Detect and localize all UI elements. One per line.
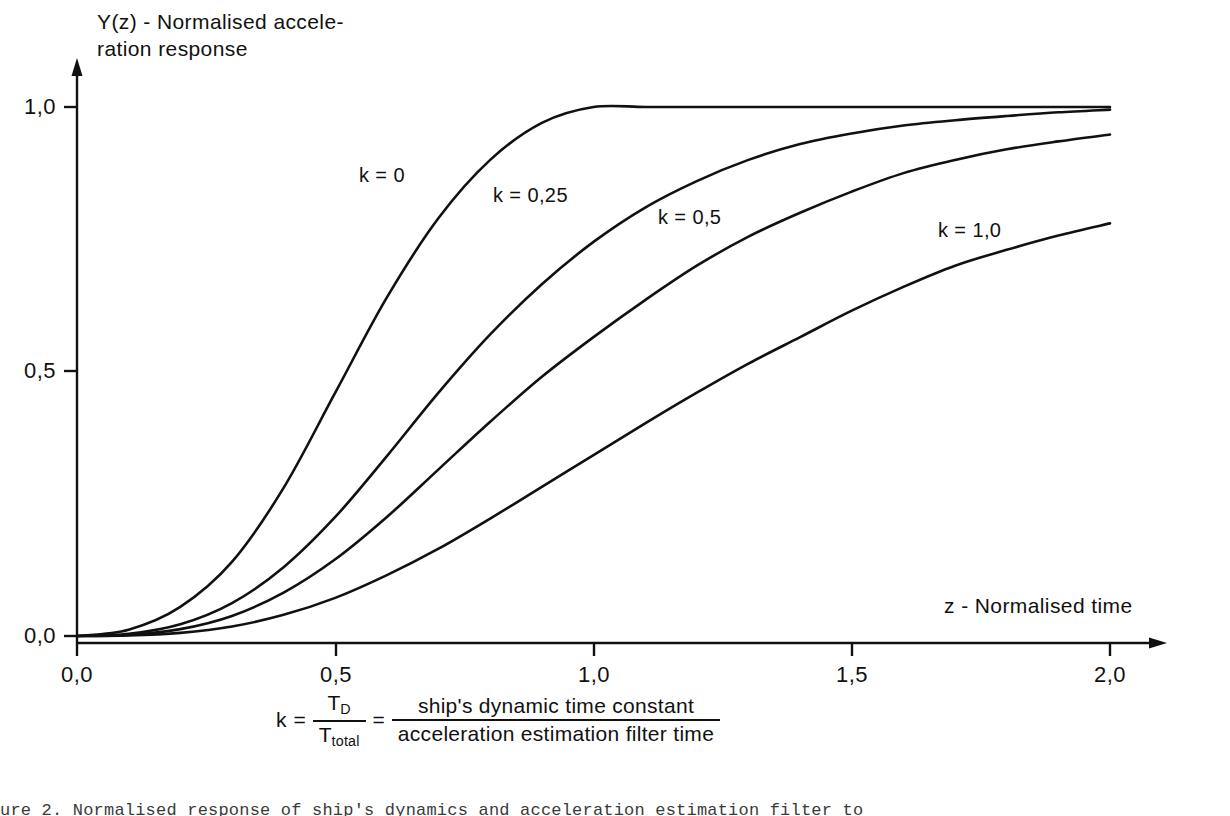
formula-denominator-t: T (319, 723, 332, 746)
curve-k-0 (77, 106, 1110, 636)
formula-numerator-subscript: D (340, 701, 351, 717)
formula-denominator-ttotal: Ttotal (313, 722, 366, 751)
data-curves (77, 106, 1110, 636)
x-tick-label-15: 1,5 (822, 662, 882, 688)
curve-label-k-10: k = 1,0 (938, 219, 1001, 242)
figure-root: Y(z) - Normalised accele-ration response… (0, 0, 1230, 816)
curve-label-k-05: k = 0,5 (658, 206, 721, 229)
y-tick-label-05: 0,5 (0, 358, 56, 384)
x-tick-label-10: 1,0 (564, 662, 624, 688)
curve-k-0-25 (77, 110, 1110, 636)
y-tick-label-0: 0,0 (0, 623, 56, 649)
formula-numerator-text: ship's dynamic time constant (412, 693, 700, 720)
definition-formula: k = TD Ttotal = ship's dynamic time cons… (276, 690, 720, 751)
formula-equals-2: = (366, 708, 392, 732)
formula-denominator-text: acceleration estimation filter time (392, 721, 720, 748)
y-axis-ticks (64, 107, 77, 636)
y-axis-title-line2: ration response (97, 37, 248, 60)
formula-numerator-t: T (327, 691, 340, 714)
y-axis-title-line1: Y(z) - Normalised accele- (97, 10, 344, 33)
y-axis (72, 58, 83, 643)
curve-k-1-0 (77, 223, 1110, 636)
x-tick-label-00: 0,0 (47, 662, 107, 688)
x-axis-ticks (77, 643, 1110, 656)
x-tick-label-20: 2,0 (1080, 662, 1140, 688)
x-tick-label-05: 0,5 (306, 662, 366, 688)
formula-fraction-symbols: TD Ttotal (313, 690, 366, 751)
curve-label-k-0: k = 0 (359, 164, 405, 187)
curve-label-k-025: k = 0,25 (493, 184, 568, 207)
formula-numerator-td: TD (321, 690, 356, 720)
formula-denominator-subscript: total (332, 733, 360, 749)
y-axis-title: Y(z) - Normalised accele-ration response (97, 8, 344, 62)
x-axis-title: z - Normalised time (944, 592, 1132, 619)
formula-equals-1: = (287, 708, 313, 732)
figure-caption: ure 2. Normalised response of ship's dyn… (0, 798, 1230, 816)
formula-fraction-words: ship's dynamic time constant acceleratio… (392, 693, 720, 749)
formula-k: k (276, 708, 287, 732)
y-tick-label-1: 1,0 (0, 94, 56, 120)
x-axis (77, 638, 1167, 649)
